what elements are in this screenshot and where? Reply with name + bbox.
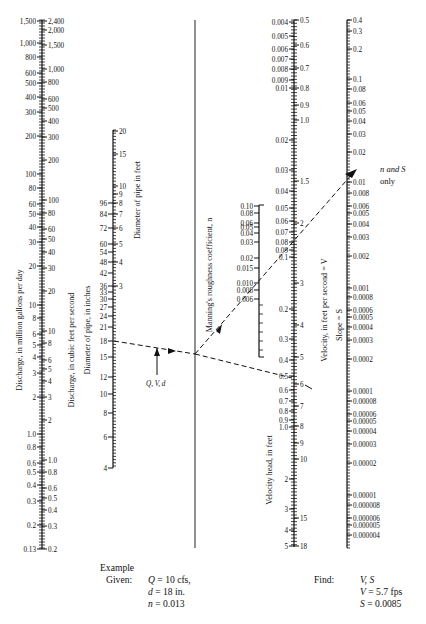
tick-label: 0.13 bbox=[23, 546, 36, 554]
find-label: Find: bbox=[314, 574, 360, 610]
tick-label: 30 bbox=[48, 265, 56, 273]
qvd-label: Q, V, d bbox=[146, 380, 166, 388]
pipe-flow-nomograph: 1,5001,000800600500400300200100806050403… bbox=[0, 0, 426, 560]
tick-label: 0.08 bbox=[353, 86, 366, 94]
tick-label: 300 bbox=[48, 134, 59, 142]
tick-label: 10 bbox=[119, 183, 127, 191]
tick-label: 3 bbox=[119, 283, 123, 291]
tick-label: 20 bbox=[119, 128, 127, 136]
tick-label: 24 bbox=[100, 313, 108, 321]
tick-label: 9 bbox=[300, 440, 304, 448]
tick-label: 0.000004 bbox=[353, 532, 380, 540]
tick-label: 0.005 bbox=[353, 210, 370, 218]
tick-label: 60 bbox=[48, 226, 56, 234]
tick-label: 2,000 bbox=[48, 27, 65, 35]
tick-label: 0.001 bbox=[353, 285, 370, 293]
tick-label: 50 bbox=[29, 211, 37, 219]
tick-label: 2 bbox=[48, 417, 52, 425]
tick-label: 4 bbox=[119, 259, 123, 267]
tick-label: 0.8 bbox=[279, 408, 288, 416]
tick-label: 9 bbox=[119, 191, 123, 199]
tick-label: 1.0 bbox=[48, 457, 57, 465]
tick-label: 0.015 bbox=[237, 265, 254, 273]
tick-label: 0.002 bbox=[353, 253, 370, 261]
tick-label: 8 bbox=[48, 340, 52, 348]
tick-label: 0.00008 bbox=[353, 398, 377, 406]
tick-label: 3 bbox=[32, 370, 36, 378]
tick-label: 5 bbox=[32, 342, 36, 350]
tick-label: 80 bbox=[48, 210, 56, 218]
n-and-s-only-note: n and S only bbox=[380, 164, 406, 186]
tick-label: 1.0 bbox=[27, 431, 36, 439]
tick-label: 4 bbox=[48, 378, 52, 386]
tick-label: 0.0001 bbox=[353, 388, 373, 396]
tick-label: 0.02 bbox=[353, 149, 366, 157]
tick-label: 0.00002 bbox=[353, 460, 377, 468]
example-box: Example Given: Q = 10 cfs, d = 18 in. n … bbox=[100, 562, 402, 610]
tick-label: 0.08 bbox=[275, 239, 288, 247]
tick-label: 2 bbox=[32, 394, 36, 402]
tick-label: 0.006 bbox=[272, 46, 289, 54]
tick-label: 100 bbox=[25, 171, 36, 179]
tick-label: 6 bbox=[103, 434, 107, 442]
tick-label: 200 bbox=[25, 133, 36, 141]
tick-label: 5 bbox=[300, 354, 304, 362]
tick-label: 18 bbox=[300, 543, 308, 551]
tick-label: 0.8 bbox=[27, 444, 36, 452]
tick-label: 8 bbox=[300, 423, 304, 431]
tick-label: 2 bbox=[300, 220, 304, 228]
tick-label: 0.007 bbox=[272, 56, 289, 64]
tick-label: 0.03 bbox=[240, 239, 253, 247]
tick-label: 30 bbox=[29, 239, 37, 247]
tick-label: 0.8 bbox=[300, 85, 309, 93]
axis-title: Velocity head, in feet bbox=[265, 434, 274, 504]
tick-label: 0.06 bbox=[353, 100, 366, 108]
tick-label: 15 bbox=[100, 354, 108, 362]
tick-label: 1,000 bbox=[48, 66, 65, 74]
tick-label: 300 bbox=[25, 109, 36, 117]
tick-label: 800 bbox=[48, 79, 59, 87]
tick-label: 0.4 bbox=[279, 357, 288, 365]
tick-label: 0.03 bbox=[353, 131, 366, 139]
tick-label: 0.0008 bbox=[353, 294, 373, 302]
velocity-scale: 0.0040.0050.0060.0070.0080.0090.010.020.… bbox=[265, 17, 329, 551]
tick-label: 10 bbox=[100, 391, 108, 399]
discharge-mgd-scale: 1,5001,000800600500400300200100806050403… bbox=[15, 18, 76, 554]
tick-label: 0.0004 bbox=[353, 324, 373, 332]
tick-label: 500 bbox=[48, 105, 59, 113]
tick-label: 21 bbox=[100, 324, 108, 332]
tick-label: 4 bbox=[300, 322, 304, 330]
tick-label: 0.2 bbox=[353, 46, 362, 54]
tick-label: 0.5 bbox=[27, 469, 36, 477]
tick-label: 0.04 bbox=[275, 188, 288, 196]
tick-label: 0.04 bbox=[353, 118, 366, 126]
tick-label: 1,000 bbox=[20, 40, 37, 48]
tick-label: 7 bbox=[300, 403, 304, 411]
tick-label: 0.1 bbox=[353, 76, 362, 84]
example-key-lines bbox=[114, 173, 353, 378]
tick-label: 0.000005 bbox=[353, 522, 380, 530]
given-d: d = 18 in. bbox=[148, 586, 328, 598]
tick-label: 18 bbox=[100, 338, 108, 346]
tick-label: 8 bbox=[119, 200, 123, 208]
axis-title: Discharge, in million gallons per day bbox=[15, 268, 24, 390]
svg-text:n and S: n and S bbox=[380, 164, 406, 174]
tick-label: 10 bbox=[29, 302, 37, 310]
tick-label: 50 bbox=[48, 236, 56, 244]
tick-label: 0.01 bbox=[353, 179, 366, 187]
tick-label: 400 bbox=[25, 94, 36, 102]
tick-label: 0.6 bbox=[48, 485, 57, 493]
given-n: n = 0.013 bbox=[148, 598, 328, 610]
tick-label: 8 bbox=[32, 315, 36, 323]
tick-label: 0.05 bbox=[353, 108, 366, 116]
tick-label: 0.1 bbox=[279, 254, 288, 262]
axis-title: Manning's roughness coefficient, n bbox=[205, 218, 214, 333]
tick-label: 600 bbox=[25, 70, 36, 78]
qvd-pointer: Q, V, d bbox=[146, 348, 166, 388]
tick-label: 6 bbox=[300, 381, 304, 389]
velocity-tail-mark bbox=[305, 385, 312, 389]
tick-label: 0.5 bbox=[279, 373, 288, 381]
tick-label: 800 bbox=[25, 54, 36, 62]
tick-label: 20 bbox=[29, 263, 37, 271]
tick-label: 100 bbox=[48, 197, 59, 205]
